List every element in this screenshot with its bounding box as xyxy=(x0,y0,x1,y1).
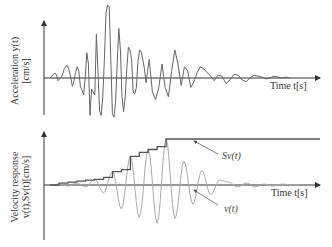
sv-annotation: Sv(t) xyxy=(222,150,241,161)
acceleration-series xyxy=(50,5,290,117)
top-y-axis-label: Acceleration y(t) [cm/s] xyxy=(9,26,31,116)
top-x-axis-label: Time t[s] xyxy=(270,80,307,91)
sv-pointer-arrow xyxy=(194,141,218,154)
chart-canvas xyxy=(0,0,332,247)
top-y-axis-label-line1: Acceleration y(t) xyxy=(9,26,20,116)
sv-envelope-series xyxy=(50,139,320,185)
bottom-y-axis-label-line2: v(t),Sv(t)[cm/s] xyxy=(20,137,31,237)
top-y-axis-label-line2: [cm/s] xyxy=(20,26,31,116)
top-chart xyxy=(44,5,320,117)
bottom-y-axis-label-line1: Velocity response xyxy=(9,137,20,237)
bottom-x-axis-label: Time t[s] xyxy=(271,187,308,198)
v-annotation: v(t) xyxy=(224,203,238,214)
bottom-chart xyxy=(44,132,320,240)
v-pointer-arrow xyxy=(194,190,218,205)
velocity-series xyxy=(50,139,299,223)
bottom-y-axis-label: Velocity response v(t),Sv(t)[cm/s] xyxy=(9,137,31,237)
